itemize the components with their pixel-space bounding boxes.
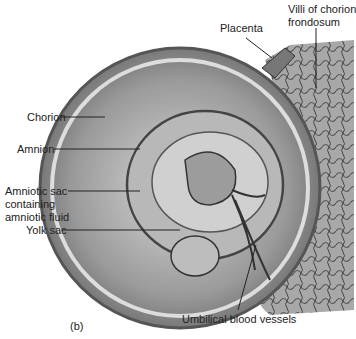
label-amniotic-2: containing <box>5 198 55 211</box>
label-villi-1: Villi of chorion <box>288 3 356 16</box>
label-amniotic-1: Amniotic sac <box>5 185 67 198</box>
label-amnion: Amnion <box>17 143 54 156</box>
label-yolk-sac: Yolk sac <box>26 224 67 237</box>
label-amniotic-3: amniotic fluid <box>5 211 69 224</box>
label-chorion: Chorion <box>27 111 66 124</box>
label-placenta: Placenta <box>220 22 263 35</box>
panel-label: (b) <box>70 320 83 333</box>
yolk-sac-shape <box>171 236 219 276</box>
label-villi-2: frondosum <box>288 16 340 29</box>
label-umbilical: Umbilical blood vessels <box>182 313 296 326</box>
